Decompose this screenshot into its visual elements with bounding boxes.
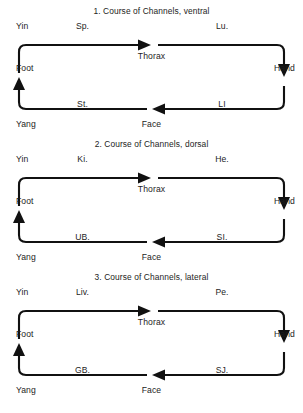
channel-course-block-2: 2. Course of Channels, dorsal Yin Foot Y… (0, 139, 303, 272)
channel-label-top-left: Liv. (0, 287, 165, 297)
junction-label-face: Face (0, 385, 303, 395)
junction-label-thorax: Thorax (0, 184, 303, 194)
pole-label-hand: Hand (274, 329, 295, 339)
arrowhead-right-thorax (138, 40, 151, 51)
channel-label-top-left: Sp. (0, 21, 165, 31)
arrowhead-up-foot (13, 77, 25, 90)
pole-label-foot: Foot (16, 63, 34, 73)
arrowhead-up-foot (13, 210, 25, 223)
channel-label-top-left: Ki. (0, 154, 165, 164)
channel-label-top-right: Pe. (152, 287, 292, 297)
pole-label-foot: Foot (16, 329, 34, 339)
channel-label-top-right: He. (152, 154, 292, 164)
pole-label-hand: Hand (274, 196, 295, 206)
block-title: 2. Course of Channels, dorsal (0, 139, 303, 149)
channel-label-top-right: Lu. (152, 21, 292, 31)
pole-label-foot: Foot (16, 196, 34, 206)
junction-label-face: Face (0, 119, 303, 129)
channel-course-block-1: 1. Course of Channels, ventral Yin Foot … (0, 6, 303, 139)
block-title: 1. Course of Channels, ventral (0, 6, 303, 16)
arrowhead-right-thorax (138, 173, 151, 184)
channel-label-bottom-right: LI (152, 99, 292, 109)
channel-course-block-3: 3. Course of Channels, lateral Yin Foot … (0, 272, 303, 405)
junction-label-face: Face (0, 252, 303, 262)
channel-label-bottom-right: SJ. (152, 365, 292, 375)
junction-label-thorax: Thorax (0, 51, 303, 61)
channel-course-diagram-sheet: 1. Course of Channels, ventral Yin Foot … (0, 0, 303, 413)
block-title: 3. Course of Channels, lateral (0, 272, 303, 282)
channel-label-bottom-left: GB. (0, 365, 165, 375)
arrowhead-right-thorax (138, 306, 151, 317)
channel-label-bottom-left: St. (0, 99, 165, 109)
pole-label-hand: Hand (274, 63, 295, 73)
junction-label-thorax: Thorax (0, 317, 303, 327)
channel-label-bottom-left: UB. (0, 232, 165, 242)
arrowhead-up-foot (13, 343, 25, 356)
channel-label-bottom-right: SI. (152, 232, 292, 242)
